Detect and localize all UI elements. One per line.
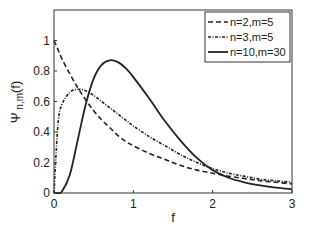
x-tick-label: 2	[209, 197, 216, 211]
svg-text:Ψ n,m(f): Ψ n,m(f)	[8, 81, 25, 124]
y-axis-label: Ψ n,m(f)	[8, 81, 25, 124]
y-tick-label: 0.4	[33, 125, 50, 139]
y-tick-label: 0.8	[33, 64, 50, 78]
x-tick-label: 0	[51, 197, 58, 211]
legend-label: n=10,m=30	[230, 46, 286, 58]
x-tick-label: 1	[130, 197, 137, 211]
legend-label: n=3,m=5	[230, 31, 273, 43]
y-tick-label: 1	[43, 34, 50, 48]
y-tick-label: 0	[43, 186, 50, 200]
y-tick-label: 0.6	[33, 95, 50, 109]
line-chart: 012300.20.40.60.81 f Ψ n,m(f) n=2,m=5n=3…	[0, 0, 310, 240]
legend: n=2,m=5n=3,m=5n=10,m=30	[205, 12, 290, 62]
plot-area	[54, 41, 292, 194]
legend-label: n=2,m=5	[230, 16, 273, 28]
series-line	[54, 60, 292, 193]
y-tick-label: 0.2	[33, 156, 50, 170]
x-tick-label: 3	[289, 197, 296, 211]
x-axis-label: f	[171, 210, 175, 225]
